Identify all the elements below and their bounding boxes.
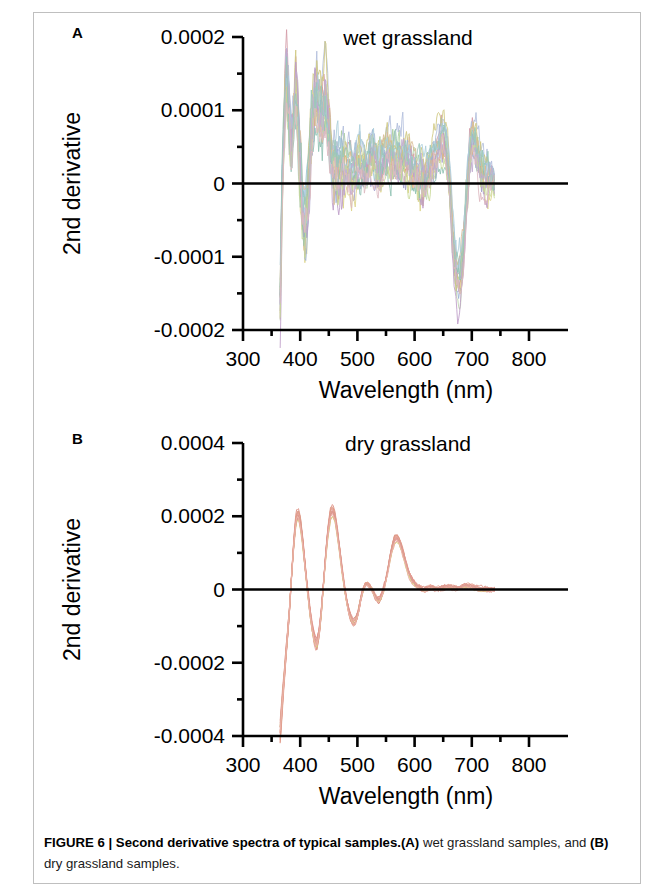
x-tick-label: 500: [340, 347, 375, 370]
y-tick-label: -0.0002: [154, 318, 225, 341]
y-tick-label: 0: [213, 172, 225, 195]
panel-b-letter: B: [72, 430, 83, 447]
figure-root: 0.00020.00010-0.0001-0.00023004005006007…: [0, 0, 649, 896]
x-tick-label: 700: [454, 753, 489, 776]
y-tick-label: -0.0002: [154, 651, 225, 674]
panel-a-wet-grassland-chart: 0.00020.00010-0.0001-0.00023004005006007…: [40, 14, 600, 404]
y-tick-label: 0.0002: [161, 504, 225, 527]
y-tick-label: 0.0001: [161, 98, 225, 121]
x-tick-label: 400: [283, 753, 318, 776]
y-axis-title: 2nd derivative: [59, 518, 85, 661]
x-axis-title: Wavelength (nm): [319, 783, 493, 809]
y-axis-title: 2nd derivative: [59, 112, 85, 255]
plot-title: dry grassland: [345, 432, 471, 455]
x-tick-label: 700: [454, 347, 489, 370]
y-tick-label: 0.0004: [161, 431, 226, 454]
x-tick-label: 400: [283, 347, 318, 370]
panel-a-letter: A: [72, 24, 83, 41]
y-tick-label: 0.0002: [161, 25, 225, 48]
figure-caption: FIGURE 6 | Second derivative spectra of …: [44, 832, 624, 874]
x-tick-label: 500: [340, 753, 375, 776]
x-axis-title: Wavelength (nm): [319, 377, 493, 403]
y-tick-label: -0.0004: [154, 724, 226, 747]
x-tick-label: 300: [225, 347, 260, 370]
plot-title: wet grassland: [342, 26, 473, 49]
y-tick-label: -0.0001: [154, 245, 225, 268]
x-tick-label: 300: [225, 753, 260, 776]
caption-b-text: dry grassland samples.: [44, 856, 180, 871]
x-tick-label: 800: [511, 753, 546, 776]
caption-a-text: wet grassland samples, and: [419, 835, 590, 850]
y-tick-label: 0: [213, 578, 225, 601]
x-tick-label: 600: [397, 753, 432, 776]
panel-b-dry-grassland-chart: 0.00040.00020-0.0002-0.00043004005006007…: [40, 420, 600, 810]
x-tick-label: 600: [397, 347, 432, 370]
caption-a-tag: (A): [401, 835, 419, 850]
caption-figure-label: FIGURE 6 | Second derivative spectra of …: [44, 835, 401, 850]
x-tick-label: 800: [511, 347, 546, 370]
caption-b-tag: (B): [590, 835, 608, 850]
